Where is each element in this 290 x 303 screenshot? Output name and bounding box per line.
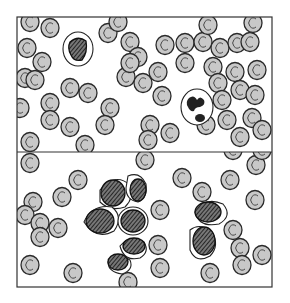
abnormal-cell-cluster (84, 175, 148, 274)
neutrophil-cell (181, 89, 213, 125)
lymphocyte-cell (63, 32, 93, 66)
abnormal-cell-pair (190, 201, 227, 259)
bottom-panel (16, 141, 271, 292)
illustration (0, 0, 290, 303)
top-panel (11, 13, 271, 155)
